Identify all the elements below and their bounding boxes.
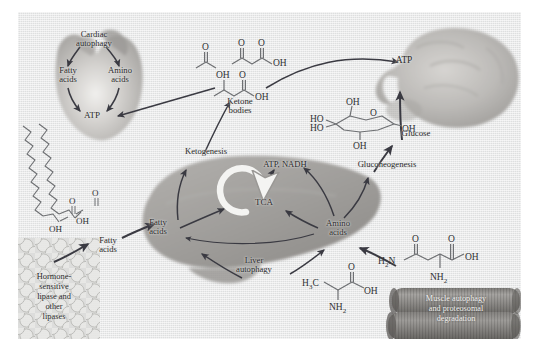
ketone-o4: O [239,70,246,80]
ketone-o1: O [202,42,209,52]
glutamine-amide: H2N [378,256,395,269]
brain-atp-label: ATP [383,56,425,66]
arrow-tca-to-atp-nadh [266,170,274,190]
arrow-fatty-to-heart-atp [68,88,80,111]
arrow-fatty-to-ketogenesis [177,170,186,220]
liver-fatty-acids-label: Fatty acids [136,218,180,236]
glutamine-o-left: O [412,234,419,244]
glutamine-structure: H2N O O OH NH2 [370,234,500,290]
arrow-adipose-to-fatty-acids [54,244,88,262]
arrow-cardiac-to-amino [106,47,119,66]
arrow-amino-to-heart-atp [107,88,119,111]
glucose-ring-o: O [370,108,377,118]
glucose-label: Glucose [392,129,440,138]
glutamine-hydroxyl: OH [465,252,479,262]
glutamine-amine: NH2 [430,272,448,285]
gluconeogenesis-label: Gluconeogenesis [344,160,430,169]
ketone-oh1: OH [273,58,287,68]
heart-atp-label: ATP [69,111,115,120]
glucose-ho-bottom: HO [310,123,324,133]
arrow-amino-to-atp-nadh [304,168,334,216]
ketone-o2: O [238,38,245,48]
arrow-amino-to-fatty-sweep [186,234,314,244]
ketone-o3: O [258,38,265,48]
ketone-oh2: OH [216,70,230,80]
ketone-bodies-label: Ketone bodies [213,97,267,115]
ketogenesis-label: Ketogenesis [166,147,246,156]
alanine-methyl: H3C [302,278,319,291]
fatty-acid-o-a: O [69,196,76,206]
adipose-caption: Hormone- sensitive lipase and other lipa… [18,272,90,322]
glucose-oh-upper: OH [346,97,360,107]
figure-canvas: O OH O OH [0,0,539,354]
muscle-caption: Muscle autophagy and proteosomal degrada… [388,294,521,324]
liver-amino-acids-label: Amino acids [314,219,362,237]
tca-label: TCA [246,198,282,207]
fatty-acid-structure: O OH O OH [19,124,139,236]
fatty-acid-o-b: O [92,188,99,198]
atp-nadh-label: ATP, NADH [250,160,320,169]
diagram-panel: O OH O OH [18,12,521,339]
alanine-carbonyl-o: O [348,262,355,272]
arrow-cardiac-to-fatty [68,47,80,66]
liver-autophagy-label: Liver autophagy [222,256,286,274]
heart-fatty-acids-label: Fatty acids [42,66,94,84]
glutamine-o-right: O [448,234,455,244]
arrow-fatty-to-tca [180,209,224,228]
fatty-acid-oh-b: OH [76,216,89,226]
cardiac-autophagy-label: Cardiac autophagy [63,30,125,48]
ketone-bodies-structure: O O O OH OH O OH [188,34,303,104]
glucose-structure: OH HO HO O OH OH [310,94,426,150]
glucose-oh-bottom: OH [353,141,367,151]
heart-amino-acids-label: Amino acids [94,66,146,84]
arrow-amino-to-gluconeogenesis [344,178,368,218]
free-fatty-acids-label: Fatty acids [87,236,129,254]
fatty-acid-oh-a: OH [49,224,62,234]
